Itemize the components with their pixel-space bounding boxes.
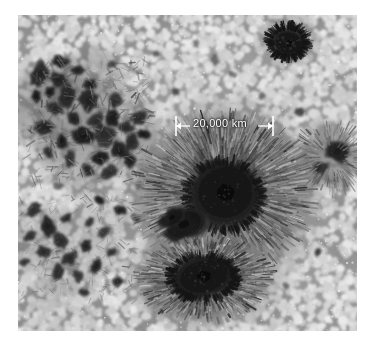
figure-root: 20,000 km bbox=[0, 0, 376, 348]
solar-image-plate bbox=[18, 15, 357, 331]
film-grain-layer bbox=[18, 15, 357, 331]
solar-photosphere-image bbox=[18, 15, 357, 331]
